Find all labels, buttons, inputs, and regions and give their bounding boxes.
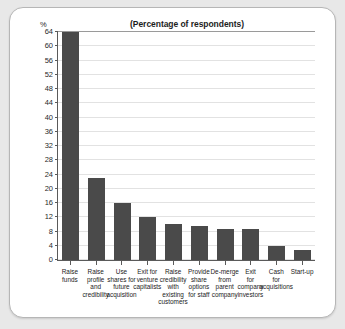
y-tick-label: 40 [45,112,53,121]
bar [268,246,285,260]
bar-slot [58,32,84,260]
x-tick-mark [121,261,122,265]
y-tick-label: 44 [45,98,53,107]
bar-slot [187,32,213,260]
bar-slot [161,32,187,260]
y-tick-label: 36 [45,126,53,135]
y-tick-label: 64 [45,27,53,36]
x-axis-category: Start-up [289,261,315,317]
bar-series [58,32,315,260]
y-tick-label: 4 [49,240,53,249]
y-tick-label: 60 [45,41,53,50]
x-tick-mark [147,261,148,265]
x-tick-label: Start-up [283,268,321,276]
chart-title: (Percentage of respondents) [58,19,316,29]
x-tick-mark [250,261,251,265]
bar [139,217,156,260]
bar [62,32,79,260]
x-tick-mark [225,261,226,265]
x-tick-mark [70,261,71,265]
bar-chart: (Percentage of respondents) % 0481216202… [10,8,337,319]
y-tick-label: 24 [45,169,53,178]
y-tick-label: 32 [45,141,53,150]
bar-slot [135,32,161,260]
x-tick-mark [199,261,200,265]
bar-slot [84,32,110,260]
x-tick-label-line: Start-up [283,268,321,276]
y-tick-label: 28 [45,155,53,164]
x-axis: RaisefundsRaiseprofileandcredibilityUses… [57,261,315,317]
bar-slot [212,32,238,260]
x-tick-mark [173,261,174,265]
x-tick-mark [96,261,97,265]
y-tick-label: 16 [45,198,53,207]
y-tick-label: 0 [49,255,53,264]
y-tick-label: 8 [49,226,53,235]
bar-slot [289,32,315,260]
bar [242,229,259,260]
bar-slot [109,32,135,260]
x-tick-mark [276,261,277,265]
bar [114,203,131,260]
bar-slot [238,32,264,260]
y-tick-label: 12 [45,212,53,221]
bar [191,226,208,260]
y-tick-label: 56 [45,55,53,64]
bar [165,224,182,260]
x-tick-mark [302,261,303,265]
bar [217,229,234,260]
bar [294,250,311,260]
bar [88,178,105,260]
plot-area: 0481216202428323640444852566064 [57,32,315,261]
figure-panel: (Percentage of respondents) % 0481216202… [9,7,336,318]
y-tick-label: 48 [45,84,53,93]
bar-slot [264,32,290,260]
y-tick-label: 20 [45,183,53,192]
y-tick-label: 52 [45,69,53,78]
